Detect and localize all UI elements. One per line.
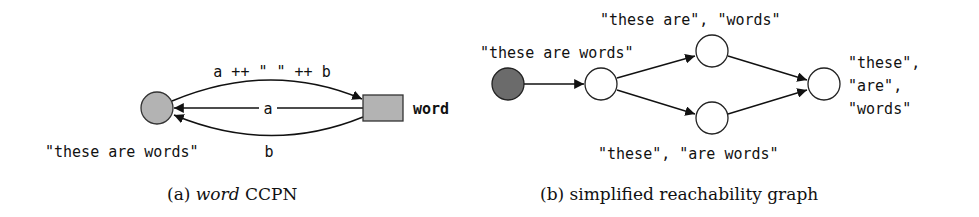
panel-a-ccpn: a ++ " " ++ b a "these are words" b word… xyxy=(45,63,449,204)
arc-place-to-transition xyxy=(172,80,362,101)
figure-canvas: a ++ " " ++ b a "these are words" b word… xyxy=(0,0,979,217)
arc-transition-to-place-b xyxy=(174,115,363,136)
state-node-s4 xyxy=(808,68,840,100)
caption-b: (b) simplified reachability graph xyxy=(540,184,818,204)
place-circle xyxy=(141,92,173,124)
transition-name: word xyxy=(413,100,449,118)
state-node-s2 xyxy=(696,35,728,67)
arc-label-bottom: b xyxy=(264,143,273,161)
place-initial-marking: "these are words" xyxy=(45,143,199,161)
state-label-s4-line2: "are", xyxy=(848,77,902,95)
edge-s3-s4 xyxy=(728,90,807,114)
state-label-s3: "these", "are words" xyxy=(598,145,779,163)
state-label-s4-line3: "words" xyxy=(848,100,911,118)
caption-a: (a) word CCPN xyxy=(167,184,297,204)
panel-b-reachability-graph: "these are words" "these are", "words" "… xyxy=(480,11,920,204)
arc-label-middle: a xyxy=(263,100,272,118)
transition-rect xyxy=(363,95,403,121)
state-node-s3 xyxy=(696,102,728,134)
state-node-initial xyxy=(492,68,524,100)
state-label-s4-line1: "these", xyxy=(848,54,920,72)
edge-s2-s4 xyxy=(728,56,807,80)
edge-s1-s3 xyxy=(617,90,695,114)
arc-label-top: a ++ " " ++ b xyxy=(213,63,330,81)
state-label-s1: "these are words" xyxy=(480,44,634,62)
state-node-s1 xyxy=(585,68,617,100)
state-label-s2: "these are", "words" xyxy=(600,11,781,29)
